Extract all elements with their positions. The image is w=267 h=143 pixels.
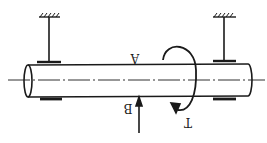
label-point-b: B xyxy=(123,101,132,115)
left-bearing xyxy=(37,62,62,99)
label-point-a: A xyxy=(130,51,140,65)
right-fixed-support xyxy=(213,13,236,61)
shaft-diagram: A B T xyxy=(0,0,267,143)
force-at-B xyxy=(136,97,142,133)
label-torque: T xyxy=(184,115,192,129)
shaft xyxy=(24,64,252,97)
left-fixed-support xyxy=(39,13,60,62)
